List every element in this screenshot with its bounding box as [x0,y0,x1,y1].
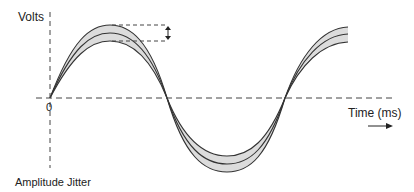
x-axis-label: Time (ms) [348,106,402,120]
amplitude-jitter-diagram [0,0,414,192]
caption: Amplitude Jitter [15,176,91,188]
origin-label: 0 [46,101,52,113]
jitter-arrow-icon [165,26,171,40]
y-axis-label: Volts [18,10,44,24]
time-direction-arrow-icon [368,123,393,129]
